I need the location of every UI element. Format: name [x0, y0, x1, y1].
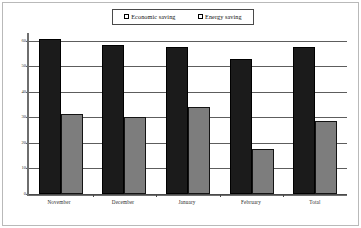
legend-swatch-energy-saving-icon	[198, 14, 203, 19]
x-axis-label-december: December	[91, 200, 155, 205]
x-axis-label-november: November	[27, 200, 91, 205]
y-tick-label-10: 10	[21, 166, 26, 171]
bar-group-january	[156, 33, 220, 194]
legend-label-energy-saving: Energy saving	[205, 14, 242, 20]
y-tick-label-40: 40	[21, 89, 26, 94]
bar-group-december	[93, 33, 157, 194]
legend-label-economic-saving: Economic saving	[131, 14, 175, 20]
bar-december-economic-saving	[102, 45, 124, 195]
x-tick-mark-2	[156, 194, 157, 197]
bar-january-energy-saving	[188, 107, 210, 194]
bar-groups	[29, 33, 347, 194]
x-tick-mark-1	[93, 194, 94, 197]
bar-group-november	[29, 33, 93, 194]
bar-january-economic-saving	[166, 47, 188, 194]
bar-chart-figure: Economic saving Energy saving 0102030405…	[0, 0, 361, 228]
bar-total-energy-saving	[315, 121, 337, 194]
y-tick-label-20: 20	[21, 141, 26, 146]
legend-swatch-economic-saving-icon	[124, 14, 129, 19]
y-tick-label-50: 50	[21, 64, 26, 69]
y-tick-mark-0	[26, 194, 29, 195]
y-tick-label-0: 0	[24, 192, 26, 197]
gridline-0	[29, 194, 347, 195]
bar-group-total	[283, 33, 347, 194]
x-axis-label-february: February	[219, 200, 283, 205]
bar-november-economic-saving	[39, 39, 61, 194]
x-axis-labels: NovemberDecemberJanuaryFebruaryTotal	[27, 200, 347, 205]
bar-february-economic-saving	[230, 59, 252, 194]
bar-november-energy-saving	[61, 114, 83, 195]
plot-area: 0102030405060	[27, 33, 347, 196]
legend-entry-economic-saving: Economic saving	[124, 14, 175, 20]
bar-group-february	[220, 33, 284, 194]
bar-december-energy-saving	[124, 117, 146, 194]
x-tick-mark-4	[283, 194, 284, 197]
x-axis-label-january: January	[155, 200, 219, 205]
x-tick-mark-3	[220, 194, 221, 197]
chart-legend: Economic saving Energy saving	[112, 9, 254, 25]
bar-total-economic-saving	[293, 47, 315, 194]
y-tick-label-30: 30	[21, 115, 26, 120]
legend-entry-energy-saving: Energy saving	[198, 14, 242, 20]
x-axis-label-total: Total	[283, 200, 347, 205]
bar-february-energy-saving	[252, 149, 274, 194]
y-tick-label-60: 60	[21, 38, 26, 43]
